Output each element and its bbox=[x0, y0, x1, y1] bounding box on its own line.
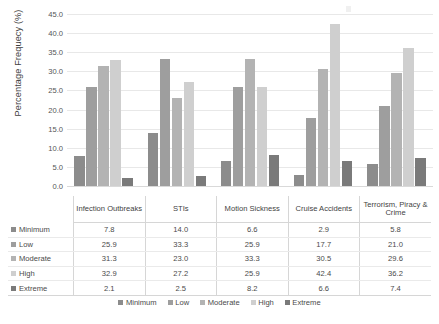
legend-color-swatch-icon bbox=[251, 300, 256, 305]
table-cell: 31.3 bbox=[74, 252, 146, 267]
bar bbox=[306, 118, 317, 186]
series-color-swatch-icon bbox=[11, 227, 16, 232]
bar bbox=[184, 82, 195, 186]
table-corner-cell bbox=[8, 196, 74, 223]
bar-groups bbox=[67, 14, 433, 186]
bar bbox=[233, 87, 244, 186]
y-axis-tick-label: 15.0 bbox=[48, 124, 63, 133]
table-category-row: Infection OutbreaksSTIsMotion SicknessCr… bbox=[8, 196, 431, 223]
data-table-body: Infection OutbreaksSTIsMotion SicknessCr… bbox=[8, 196, 431, 295]
table-column-header: Motion Sickness bbox=[217, 196, 289, 223]
y-axis-tick-label: 10.0 bbox=[48, 143, 63, 152]
table-row-label: Low bbox=[19, 240, 33, 249]
bar bbox=[245, 59, 256, 186]
table-cell: 23.0 bbox=[145, 252, 217, 267]
bar bbox=[269, 155, 280, 186]
bar-group bbox=[213, 14, 286, 186]
legend-label: Extreme bbox=[292, 298, 320, 307]
bar-chart-with-data-table: Percentage Frequecy (%) 45.040.035.030.0… bbox=[0, 0, 439, 324]
chart-legend: MinimumLowModerateHighExtreme bbox=[0, 298, 439, 307]
legend-color-swatch-icon bbox=[200, 300, 205, 305]
table-column-header: STIs bbox=[145, 196, 217, 223]
bar-group bbox=[287, 14, 360, 186]
bar bbox=[318, 69, 329, 186]
table-cell: 36.2 bbox=[360, 266, 432, 281]
table-cell: 29.6 bbox=[360, 252, 432, 267]
table-cell: 7.8 bbox=[74, 223, 146, 238]
bar bbox=[148, 133, 159, 187]
legend-label: Low bbox=[175, 298, 189, 307]
y-axis-tick-label: 0.0 bbox=[52, 182, 63, 191]
table-row-header: Extreme bbox=[8, 281, 74, 296]
bar bbox=[367, 164, 378, 186]
legend-item[interactable]: Low bbox=[168, 298, 189, 307]
bar-group bbox=[140, 14, 213, 186]
series-color-swatch-icon bbox=[11, 271, 16, 276]
table-cell: 14.0 bbox=[145, 223, 217, 238]
bar bbox=[415, 158, 426, 186]
table-row: Extreme2.12.58.26.67.4 bbox=[8, 281, 431, 296]
table-cell: 2.9 bbox=[288, 223, 360, 238]
table-row-label: High bbox=[19, 269, 35, 278]
table-cell: 33.3 bbox=[217, 252, 289, 267]
bar bbox=[172, 98, 183, 186]
bar bbox=[160, 59, 171, 186]
legend-item[interactable]: Moderate bbox=[200, 298, 240, 307]
legend-item[interactable]: High bbox=[251, 298, 274, 307]
table-cell: 32.9 bbox=[74, 266, 146, 281]
table-column-header: Terrorism, Piracy & Crime bbox=[360, 196, 432, 223]
series-color-swatch-icon bbox=[11, 256, 16, 261]
legend-label: High bbox=[258, 298, 274, 307]
legend-color-swatch-icon bbox=[168, 300, 173, 305]
table-cell: 8.2 bbox=[217, 281, 289, 296]
table-cell: 6.6 bbox=[288, 281, 360, 296]
table-row-header: High bbox=[8, 266, 74, 281]
legend-color-swatch-icon bbox=[118, 300, 123, 305]
bar bbox=[403, 48, 414, 186]
axis-baseline bbox=[67, 186, 433, 187]
legend-color-swatch-icon bbox=[285, 300, 290, 305]
legend-item[interactable]: Extreme bbox=[285, 298, 321, 307]
bar bbox=[110, 60, 121, 186]
y-axis-tick-label: 45.0 bbox=[48, 10, 63, 19]
series-color-swatch-icon bbox=[11, 242, 16, 247]
table-cell: 25.9 bbox=[74, 237, 146, 252]
table-cell: 21.0 bbox=[360, 237, 432, 252]
bar bbox=[86, 87, 97, 186]
series-color-swatch-icon bbox=[11, 286, 16, 291]
bar bbox=[221, 161, 232, 186]
bar-group bbox=[360, 14, 433, 186]
table-cell: 17.7 bbox=[288, 237, 360, 252]
bar bbox=[74, 156, 85, 186]
bar bbox=[294, 175, 305, 186]
y-axis-tick-label: 30.0 bbox=[48, 67, 63, 76]
table-row-header: Minimum bbox=[8, 223, 74, 238]
table-row-label: Moderate bbox=[19, 254, 51, 263]
y-axis-tick-label: 40.0 bbox=[48, 29, 63, 38]
table-cell: 42.4 bbox=[288, 266, 360, 281]
data-table: Infection OutbreaksSTIsMotion SicknessCr… bbox=[8, 196, 431, 296]
bar-group bbox=[67, 14, 140, 186]
plot-area: Percentage Frequecy (%) 45.040.035.030.0… bbox=[0, 0, 439, 196]
table-row-label: Extreme bbox=[19, 284, 47, 293]
legend-label: Minimum bbox=[126, 298, 157, 307]
table-cell: 27.2 bbox=[145, 266, 217, 281]
table-cell: 5.8 bbox=[360, 223, 432, 238]
bar bbox=[98, 66, 109, 186]
y-axis-tick-label: 5.0 bbox=[52, 162, 63, 171]
y-axis-tick-label: 20.0 bbox=[48, 105, 63, 114]
y-axis-title: Percentage Frequecy (%) bbox=[13, 0, 23, 133]
table-row: Low25.933.325.917.721.0 bbox=[8, 237, 431, 252]
table-cell: 6.6 bbox=[217, 223, 289, 238]
bar bbox=[342, 161, 353, 186]
table-column-header: Cruise Accidents bbox=[288, 196, 360, 223]
table-row: Moderate31.323.033.330.529.6 bbox=[8, 252, 431, 267]
table-cell: 30.5 bbox=[288, 252, 360, 267]
table-cell: 7.4 bbox=[360, 281, 432, 296]
bar bbox=[122, 178, 133, 186]
table-row-header: Low bbox=[8, 237, 74, 252]
legend-item[interactable]: Minimum bbox=[118, 298, 156, 307]
table-cell: 2.1 bbox=[74, 281, 146, 296]
table-cell: 25.9 bbox=[217, 237, 289, 252]
bar bbox=[196, 176, 207, 186]
